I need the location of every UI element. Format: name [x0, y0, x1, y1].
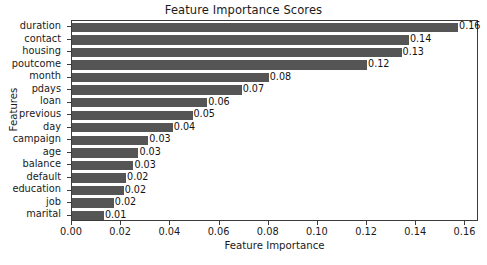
y-tick-label-housing: housing	[0, 45, 67, 58]
bar-value-label: 0.16	[459, 20, 480, 32]
bar-pdays	[72, 85, 242, 94]
bar-month	[72, 73, 269, 82]
bar-row: 0.04	[72, 122, 477, 135]
bar-value-label: 0.08	[270, 71, 291, 83]
x-tick-label-0.08: 0.08	[257, 226, 279, 237]
x-tick-label-0.14: 0.14	[404, 226, 426, 237]
bar-job	[72, 198, 114, 207]
y-tick-label-balance: balance	[0, 158, 67, 171]
bar-row: 0.03	[72, 134, 477, 147]
bar-row: 0.06	[72, 96, 477, 109]
bar-row: 0.05	[72, 109, 477, 122]
bar-value-label: 0.03	[139, 146, 160, 158]
bar-value-label: 0.07	[243, 83, 264, 95]
plot-area: 0.160.140.130.120.080.070.060.050.040.03…	[71, 20, 478, 221]
bar-value-label: 0.02	[125, 184, 146, 196]
bar-row: 0.13	[72, 46, 477, 59]
bar-value-label: 0.14	[410, 33, 431, 45]
bar-row: 0.08	[72, 71, 477, 84]
bar-default	[72, 173, 126, 182]
x-tick-label-0.00: 0.00	[60, 226, 82, 237]
bar-loan	[72, 98, 207, 107]
bar-balance	[72, 161, 133, 170]
bar-row: 0.03	[72, 147, 477, 160]
bar-contact	[72, 35, 409, 44]
y-tick-label-default: default	[0, 171, 67, 184]
bar-value-label: 0.04	[174, 121, 195, 133]
x-tick-label-0.04: 0.04	[158, 226, 180, 237]
x-tick-label-0.12: 0.12	[355, 226, 377, 237]
y-tick-label-contact: contact	[0, 33, 67, 46]
x-axis-tick-labels: 0.000.020.040.060.080.100.120.140.16	[71, 221, 478, 241]
bar-value-label: 0.03	[149, 133, 170, 145]
bar-housing	[72, 48, 402, 57]
y-tick-label-job: job	[0, 196, 67, 209]
x-tick-label-0.06: 0.06	[208, 226, 230, 237]
x-tick-mark	[219, 221, 220, 225]
x-tick-label-0.02: 0.02	[109, 226, 131, 237]
bar-day	[72, 123, 173, 132]
x-tick-mark	[71, 221, 72, 225]
bar-duration	[72, 23, 458, 32]
chart-title: Feature Importance Scores	[0, 3, 487, 17]
y-tick-label-duration: duration	[0, 20, 67, 33]
bar-row: 0.02	[72, 172, 477, 185]
y-tick-label-marital: marital	[0, 208, 67, 221]
bar-marital	[72, 211, 104, 220]
x-tick-label-0.10: 0.10	[306, 226, 328, 237]
bar-poutcome	[72, 60, 367, 69]
bar-value-label: 0.13	[403, 46, 424, 58]
bar-age	[72, 148, 138, 157]
bar-row: 0.16	[72, 21, 477, 34]
bar-value-label: 0.03	[134, 159, 155, 171]
x-tick-mark	[120, 221, 121, 225]
x-tick-mark	[366, 221, 367, 225]
x-tick-mark	[317, 221, 318, 225]
y-tick-label-poutcome: poutcome	[0, 58, 67, 71]
bar-row: 0.02	[72, 197, 477, 210]
bar-education	[72, 186, 124, 195]
bar-value-label: 0.05	[194, 108, 215, 120]
bar-row: 0.12	[72, 59, 477, 72]
bar-value-label: 0.01	[105, 209, 126, 221]
bar-previous	[72, 111, 193, 120]
x-tick-mark	[464, 221, 465, 225]
bar-row: 0.14	[72, 34, 477, 47]
bars-layer: 0.160.140.130.120.080.070.060.050.040.03…	[72, 21, 477, 220]
bar-value-label: 0.06	[208, 96, 229, 108]
x-tick-mark	[169, 221, 170, 225]
bar-row: 0.07	[72, 84, 477, 97]
bar-value-label: 0.12	[368, 58, 389, 70]
bar-row: 0.03	[72, 159, 477, 172]
y-tick-label-education: education	[0, 183, 67, 196]
bar-value-label: 0.02	[115, 196, 136, 208]
bar-row: 0.02	[72, 184, 477, 197]
bar-campaign	[72, 136, 148, 145]
bar-value-label: 0.02	[127, 171, 148, 183]
x-tick-label-0.16: 0.16	[454, 226, 476, 237]
x-axis-label: Feature Importance	[71, 240, 478, 251]
x-tick-mark	[415, 221, 416, 225]
x-tick-mark	[268, 221, 269, 225]
y-axis-label: Features	[8, 70, 19, 150]
chart-figure: Feature Importance Scores durationcontac…	[0, 0, 487, 265]
